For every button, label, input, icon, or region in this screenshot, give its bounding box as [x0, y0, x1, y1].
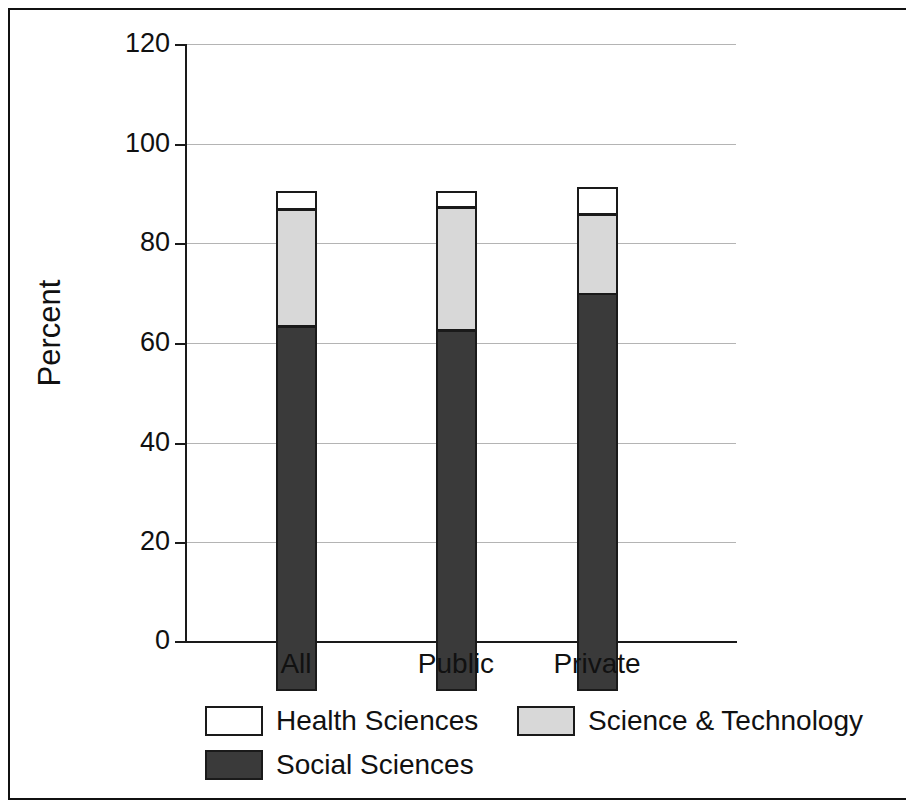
y-tick-label-100-wrap: 100: [62, 130, 170, 160]
y-tick-label-40: 40: [70, 429, 170, 456]
y-tick-label-20: 20: [70, 528, 170, 555]
y-tick-label-40-wrap: 40: [62, 429, 170, 459]
bar-segment-public-science-technology[interactable]: [436, 207, 477, 331]
bar-segment-public-health-sciences[interactable]: [436, 191, 477, 208]
legend-label-science-technology: Science & Technology: [588, 707, 863, 735]
bar-group-public[interactable]: [436, 48, 477, 690]
y-tick-mark-0: [175, 641, 186, 643]
white-swatch-icon: [205, 706, 263, 736]
dark-gray-swatch-icon: [205, 750, 263, 780]
legend-entry-social-sciences[interactable]: Social Sciences: [205, 750, 474, 780]
y-tick-mark-60: [175, 343, 186, 345]
bar-segment-public-social-sciences[interactable]: [436, 330, 477, 691]
y-tick-label-120-wrap: 120: [62, 30, 170, 60]
bar-group-private[interactable]: [577, 48, 618, 690]
bar-segment-all-health-sciences[interactable]: [276, 191, 317, 210]
legend-entry-health-sciences[interactable]: Health Sciences: [205, 706, 478, 736]
gridline-120: [186, 44, 736, 45]
y-tick-label-0: 0: [70, 627, 170, 654]
legend-row-2: Social Sciences: [205, 750, 825, 794]
chart-legend: Health Sciences Science & Technology Soc…: [205, 706, 825, 794]
bar-segment-private-health-sciences[interactable]: [577, 187, 618, 215]
legend-entry-science-technology[interactable]: Science & Technology: [517, 706, 863, 736]
y-tick-label-20-wrap: 20: [62, 528, 170, 558]
y-tick-mark-100: [175, 144, 186, 146]
y-tick-label-80: 80: [70, 229, 170, 256]
y-tick-mark-40: [175, 443, 186, 445]
plot-area: 120 100 80 60 40 20 0 Percent: [0, 0, 906, 690]
bar-segment-all-science-technology[interactable]: [276, 209, 317, 327]
bar-group-all[interactable]: [276, 48, 317, 690]
y-tick-label-100: 100: [70, 130, 170, 157]
bar-segment-private-social-sciences[interactable]: [577, 293, 618, 691]
x-tick-label-private: Private: [497, 650, 697, 678]
bar-segment-private-science-technology[interactable]: [577, 214, 618, 295]
light-gray-swatch-icon: [517, 706, 575, 736]
legend-label-social-sciences: Social Sciences: [276, 751, 474, 779]
y-tick-label-120: 120: [70, 30, 170, 57]
bar-segment-all-social-sciences[interactable]: [276, 326, 317, 691]
y-tick-label-60-wrap: 60: [62, 329, 170, 359]
y-tick-label-60: 60: [70, 329, 170, 356]
y-tick-label-0-wrap: 0: [62, 627, 170, 657]
y-tick-label-80-wrap: 80: [62, 229, 170, 259]
y-tick-mark-80: [175, 243, 186, 245]
legend-label-health-sciences: Health Sciences: [276, 707, 478, 735]
y-axis-title: Percent: [32, 223, 68, 443]
y-tick-mark-20: [175, 542, 186, 544]
y-tick-mark-120: [175, 44, 186, 46]
stacked-bar-chart-figure: 120 100 80 60 40 20 0 Percent: [0, 0, 906, 810]
legend-row-1: Health Sciences Science & Technology: [205, 706, 825, 750]
